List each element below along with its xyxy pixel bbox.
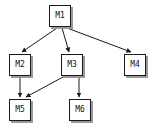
node-m3[interactable]: M3	[61, 54, 83, 76]
node-m5[interactable]: M5	[9, 99, 31, 121]
edge-m1-to-m4	[67, 28, 131, 52]
node-m2[interactable]: M2	[9, 54, 31, 76]
edge-m1-to-m2	[22, 28, 57, 52]
edge-m3-to-m5	[26, 77, 63, 97]
edge-m1-to-m3	[62, 28, 69, 52]
node-m1[interactable]: M1	[49, 5, 71, 27]
node-m4[interactable]: M4	[124, 54, 146, 76]
graph-diagram: M1 M2 M3 M4 M5 M6	[0, 0, 151, 129]
node-m2-label: M2	[15, 61, 25, 69]
node-m6-label: M6	[75, 106, 85, 114]
node-m4-label: M4	[130, 61, 140, 69]
node-m3-label: M3	[67, 61, 77, 69]
node-m5-label: M5	[15, 106, 25, 114]
node-m6[interactable]: M6	[69, 99, 91, 121]
node-m1-label: M1	[55, 12, 65, 20]
